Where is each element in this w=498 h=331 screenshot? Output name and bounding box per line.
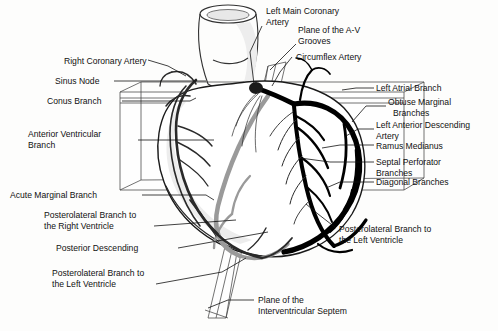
- label-text-line2: Interventricular Septem: [258, 306, 347, 316]
- label-plane-interventricular-septum: Plane of the Interventricular Septem: [258, 295, 347, 316]
- label-plane-av-grooves: Plane of the A-V Grooves: [298, 25, 360, 46]
- label-text-line1: Plane of the: [258, 295, 304, 305]
- label-text: Right Coronary Artery: [64, 56, 147, 66]
- label-sinus-node: Sinus Node: [55, 76, 100, 86]
- label-text: Acute Marginal Branch: [10, 190, 97, 200]
- label-left-anterior-descending-artery: Left Anterior Descending Artery: [376, 120, 470, 141]
- label-text-line1: Obtuse Marginal: [388, 97, 451, 107]
- label-text: Left Atrial Branch: [376, 83, 442, 93]
- label-text: Sinus Node: [55, 76, 100, 86]
- label-septal-perforator-branches: Septal Perforator Branches: [376, 157, 441, 178]
- label-left-atrial-branch: Left Atrial Branch: [376, 83, 442, 93]
- label-text-line2: Branches: [393, 108, 429, 118]
- label-text-line1: Posterolateral Branch to: [52, 268, 144, 278]
- label-text-line2: Artery: [266, 17, 290, 27]
- label-conus-branch: Conus Branch: [47, 96, 102, 106]
- label-right-coronary-artery: Right Coronary Artery: [64, 56, 147, 66]
- label-anterior-ventricular-branch: Anterior Ventricular Branch: [28, 129, 101, 150]
- label-text-line2: Grooves: [298, 36, 330, 46]
- label-left-main-coronary-artery: Left Main Coronary Artery: [266, 6, 340, 27]
- label-posterolateral-branch-left-ventricle-right: Posterolateral Branch to the Left Ventri…: [339, 224, 431, 245]
- label-text-line2: the Left Ventricle: [339, 235, 403, 245]
- label-text-line1: Anterior Ventricular: [28, 129, 101, 139]
- label-text-line1: Plane of the A-V: [298, 25, 360, 35]
- label-text: Circumflex Artery: [296, 52, 362, 62]
- label-diagonal-branches: Diagonal Branches: [376, 177, 449, 187]
- label-ramus-medianus: Ramus Medianus: [376, 141, 443, 151]
- label-text-line1: Septal Perforator: [376, 157, 441, 167]
- aorta: [198, 5, 258, 90]
- label-text-line2: Artery: [376, 131, 400, 141]
- label-acute-marginal-branch: Acute Marginal Branch: [10, 190, 97, 200]
- label-posterior-descending: Posterior Descending: [56, 243, 138, 253]
- label-text: Ramus Medianus: [376, 141, 443, 151]
- label-text-line1: Posterolateral Branch to: [44, 210, 136, 220]
- label-text: Diagonal Branches: [376, 177, 449, 187]
- label-posterolateral-branch-right-ventricle: Posterolateral Branch to the Right Ventr…: [44, 210, 136, 231]
- label-text-line1: Left Main Coronary: [266, 6, 340, 16]
- label-text-line2: Branch: [28, 140, 55, 150]
- label-text-line1: Posterolateral Branch to: [339, 224, 431, 234]
- label-text-line2: the Left Ventricle: [52, 279, 116, 289]
- diagram-canvas: Right Coronary Artery Sinus Node Conus B…: [0, 0, 498, 331]
- label-text: Posterior Descending: [56, 243, 138, 253]
- label-posterolateral-branch-left-ventricle-left: Posterolateral Branch to the Left Ventri…: [52, 268, 144, 289]
- label-circumflex-artery: Circumflex Artery: [296, 52, 362, 62]
- label-text: Conus Branch: [47, 96, 102, 106]
- label-text-line1: Left Anterior Descending: [376, 120, 470, 130]
- label-text-line2: the Right Ventricle: [44, 221, 114, 231]
- label-obtuse-marginal-branches: Obtuse Marginal Branches: [388, 97, 451, 118]
